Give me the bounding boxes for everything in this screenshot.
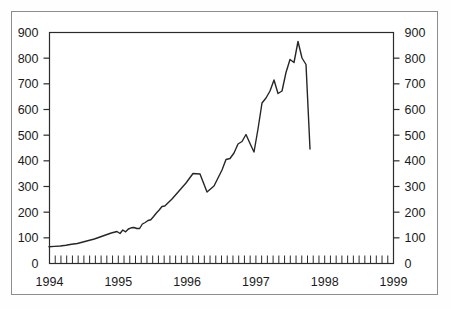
figure-container: 0100200300400500600700800900 01002003004… — [0, 0, 451, 309]
y-axis-left-tick-label: 500 — [18, 129, 39, 143]
y-axis-right-tick-label: 600 — [405, 103, 426, 117]
y-axis-right-tick-label: 400 — [405, 154, 426, 168]
y-axis-left-tick-label: 0 — [32, 257, 39, 271]
y-axis-right-tick-label: 700 — [405, 77, 426, 91]
y-axis-right-tick-label: 300 — [405, 180, 426, 194]
plot-area-border — [50, 33, 394, 264]
y-axis-right-tick-label: 900 — [405, 26, 426, 40]
y-axis-right-tick-label: 800 — [405, 52, 426, 66]
y-axis-left-tick-label: 700 — [18, 77, 39, 91]
line-chart: 0100200300400500600700800900 01002003004… — [0, 0, 451, 309]
x-axis-minor-ticks — [50, 256, 394, 264]
y-axis-right-tick-label: 200 — [405, 206, 426, 220]
y-axis-right-tick-label: 100 — [405, 231, 426, 245]
x-axis-tick-label: 1997 — [242, 275, 270, 289]
y-axis-right-tick-label: 0 — [405, 257, 412, 271]
x-axis-tick-label: 1998 — [311, 275, 339, 289]
y-axis-right-ticks — [394, 58, 400, 238]
x-axis-tick-label: 1999 — [380, 275, 408, 289]
data-series-line — [49, 42, 310, 247]
y-axis-right-tick-labels: 0100200300400500600700800900 — [405, 26, 426, 271]
x-axis-tick-labels: 199419951996199719981999 — [36, 275, 408, 289]
y-axis-left-tick-label: 400 — [18, 154, 39, 168]
y-axis-left-tick-labels: 0100200300400500600700800900 — [18, 26, 39, 271]
y-axis-left-tick-label: 900 — [18, 26, 39, 40]
y-axis-left-tick-label: 200 — [18, 206, 39, 220]
x-axis-tick-label: 1994 — [36, 275, 64, 289]
y-axis-left-tick-label: 300 — [18, 180, 39, 194]
x-axis-tick-label: 1995 — [104, 275, 132, 289]
y-axis-left-tick-label: 600 — [18, 103, 39, 117]
x-axis-tick-label: 1996 — [173, 275, 201, 289]
y-axis-left-tick-label: 800 — [18, 52, 39, 66]
y-axis-right-tick-label: 500 — [405, 129, 426, 143]
y-axis-left-tick-label: 100 — [18, 231, 39, 245]
y-axis-left-ticks — [44, 58, 50, 238]
